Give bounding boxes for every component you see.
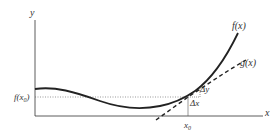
x0-label: x0: [183, 120, 191, 131]
x-axis-label: x: [264, 107, 270, 118]
delta-y-label: Δy: [199, 84, 209, 94]
delta-x-label: Δx: [189, 98, 199, 108]
f-curve-label: f(x): [232, 20, 247, 32]
f-x0-label: f(x0): [14, 92, 30, 103]
y-axis-label: y: [29, 7, 35, 18]
derivative-diagram: y x f(x) g(x) f(x0) x0 Δx Δy: [0, 0, 277, 136]
g-curve-label: g(x): [240, 57, 257, 69]
